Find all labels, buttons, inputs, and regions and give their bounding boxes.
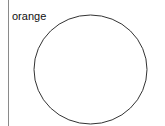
circle-outline xyxy=(34,15,147,124)
circle-shape xyxy=(0,0,165,126)
